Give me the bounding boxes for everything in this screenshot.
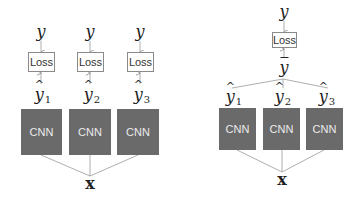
prediction-base: y [226, 89, 235, 105]
loss-box-3: Loss [127, 52, 154, 72]
target-label: y [279, 4, 288, 20]
prediction-base: y [319, 89, 328, 105]
target-label-2: y [85, 24, 94, 40]
average-prediction-label: y [279, 60, 288, 76]
input-label: x [277, 172, 287, 188]
cnn-block-3: CNN [306, 108, 343, 150]
loss-box: Loss [272, 32, 297, 48]
prediction-subscript: 1 [236, 96, 242, 107]
prediction-subscript: 2 [285, 96, 291, 107]
prediction-base: y [35, 87, 44, 103]
loss-box-1: Loss [28, 52, 55, 72]
prediction-label-3: y3 [134, 87, 150, 105]
prediction-subscript: 3 [329, 96, 335, 107]
target-label-1: y [36, 24, 45, 40]
prediction-label-1: y1 [226, 89, 242, 107]
cnn-block-3: CNN [117, 109, 159, 155]
cnn-block-1: CNN [21, 109, 62, 155]
prediction-label-1: y1 [35, 87, 51, 105]
loss-box-2: Loss [77, 52, 104, 72]
prediction-base: y [84, 87, 93, 103]
cnn-block-2: CNN [69, 109, 111, 155]
prediction-label-3: y3 [319, 89, 335, 107]
cnn-block-1: CNN [219, 108, 256, 150]
input-label: x [85, 176, 95, 192]
prediction-label-2: y2 [275, 89, 291, 107]
connection-lines [0, 0, 363, 200]
target-label-3: y [135, 24, 144, 40]
average-base: y [279, 60, 288, 76]
prediction-subscript: 2 [94, 94, 100, 105]
prediction-base: y [134, 87, 143, 103]
prediction-subscript: 1 [45, 94, 51, 105]
prediction-label-2: y2 [84, 87, 100, 105]
prediction-base: y [275, 89, 284, 105]
cnn-block-2: CNN [263, 108, 300, 150]
prediction-subscript: 3 [144, 94, 150, 105]
